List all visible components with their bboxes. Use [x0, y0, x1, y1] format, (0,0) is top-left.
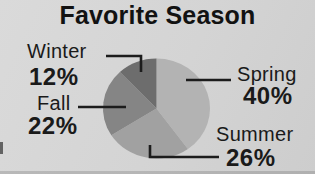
pie-chart-figure: Favorite Season Winter 12% Spring 40% Fa… — [0, 0, 315, 174]
scan-artifact-mark — [0, 142, 3, 154]
fall-percent: 22% — [28, 114, 78, 138]
summer-label: Summer — [216, 124, 293, 144]
winter-percent: 12% — [29, 65, 79, 89]
spring-percent: 40% — [243, 84, 293, 108]
summer-percent: 26% — [226, 146, 276, 170]
spring-label: Spring — [237, 64, 297, 84]
pie-slices — [103, 59, 210, 159]
fall-label: Fall — [37, 93, 70, 113]
winter-label: Winter — [27, 41, 87, 61]
scan-edge-shadow — [0, 171, 315, 174]
